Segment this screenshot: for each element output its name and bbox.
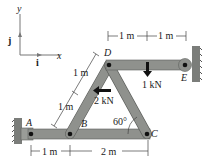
dim-top-left: 1 m	[119, 30, 135, 41]
member-ac	[28, 129, 150, 139]
dim-top-right: 1 m	[158, 30, 174, 41]
right-wall	[192, 46, 202, 82]
y-axis-label: y	[16, 3, 22, 14]
point-e-label: E	[180, 72, 187, 83]
dim-bottom-right: 2 m	[101, 146, 117, 157]
dim-bd-upper: 1 m	[73, 67, 89, 78]
i-unit-label: i	[36, 57, 39, 68]
frame-diagram: y x j i A B C D E	[0, 0, 212, 164]
x-axis-label: x	[56, 50, 62, 61]
point-c-label: C	[151, 128, 158, 139]
point-b-label: B	[81, 118, 87, 129]
axes-icon	[18, 14, 60, 57]
point-d-label: D	[103, 47, 112, 58]
load-2kn-label: 2 kN	[94, 95, 114, 106]
load-1kn-label: 1 kN	[142, 79, 162, 90]
dim-bd-lower: 1 m	[58, 101, 74, 112]
j-unit-label: j	[7, 35, 11, 46]
dim-bottom-left: 1 m	[42, 146, 58, 157]
point-a-label: A	[25, 117, 33, 128]
angle-label: 60°	[113, 116, 127, 127]
